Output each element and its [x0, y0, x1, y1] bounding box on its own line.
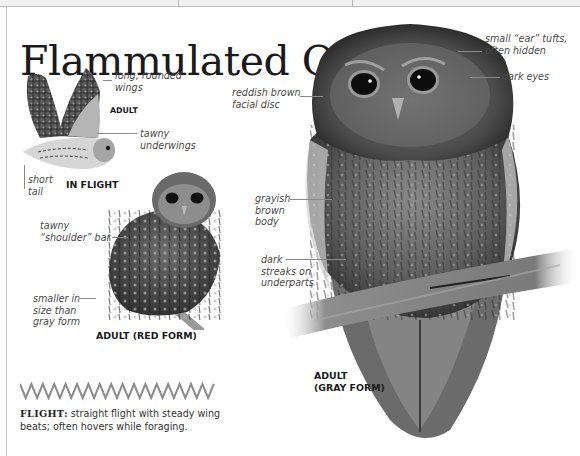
red-form-owl-image — [92, 170, 232, 330]
annotation-grayish-brown-body: grayish brown body — [255, 193, 290, 228]
annotation-facial-disc: reddish brown facial disc — [232, 87, 301, 110]
leader-line — [24, 165, 25, 189]
leader-line — [458, 51, 482, 52]
leader-line — [286, 259, 346, 260]
leader-line — [112, 237, 128, 238]
page-left-rule — [6, 7, 7, 456]
annotation-ear-tufts: small “ear” tufts, often hidden — [485, 33, 567, 56]
annotation-tawny-shoulder-bar: tawny “shoulder” bar — [40, 220, 111, 243]
column-divider — [178, 0, 179, 6]
in-flight-caption: IN FLIGHT — [66, 179, 118, 191]
leader-line — [470, 77, 500, 78]
red-form-caption: ADULT (RED FORM) — [96, 330, 197, 342]
leader-line — [103, 80, 112, 81]
gray-form-caption: ADULT (GRAY FORM) — [314, 370, 385, 393]
annotation-smaller-size: smaller in size than gray form — [33, 293, 80, 328]
leader-line — [80, 298, 96, 299]
annotation-dark-eyes: dark eyes — [502, 71, 549, 83]
column-divider — [352, 0, 353, 6]
flight-description: FLIGHT: straight flight with steady wing… — [20, 407, 235, 433]
in-flight-age-label: ADULT — [110, 105, 138, 117]
annotation-long-rounded-wings: long, rounded wings — [115, 70, 182, 93]
in-flight-owl-image — [18, 66, 118, 178]
leader-line — [300, 96, 323, 97]
leader-line — [97, 133, 137, 134]
flight-heading: FLIGHT: — [20, 408, 68, 419]
page-top-strip — [0, 0, 580, 7]
annotation-tawny-underwings: tawny underwings — [140, 128, 196, 151]
zigzag-flight-path-icon — [20, 382, 215, 400]
annotation-short-tail: short tail — [28, 174, 53, 197]
leader-line — [290, 199, 332, 200]
